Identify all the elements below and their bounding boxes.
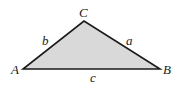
triangle-diagram: A B C b a c bbox=[0, 0, 180, 88]
side-label-a: a bbox=[126, 33, 133, 48]
vertex-label-a: A bbox=[10, 62, 19, 77]
side-label-b: b bbox=[42, 33, 49, 48]
vertex-label-b: B bbox=[163, 62, 171, 77]
side-label-c: c bbox=[90, 70, 96, 85]
vertex-label-c: C bbox=[79, 5, 88, 20]
